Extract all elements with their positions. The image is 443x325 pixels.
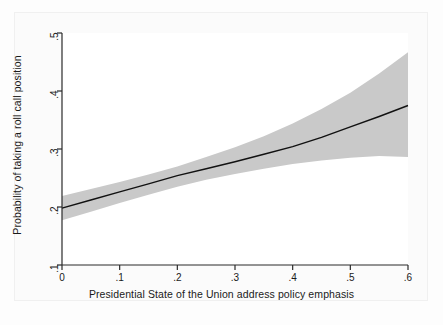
x-tick-label: .6 <box>396 272 420 283</box>
y-tick-label: .3 <box>49 149 60 171</box>
y-tick-label: .1 <box>49 265 60 287</box>
x-tick-label: .5 <box>338 272 362 283</box>
y-axis-title-container: Probability of taking a roll call positi… <box>0 0 34 290</box>
y-tick-label: .4 <box>49 91 60 113</box>
x-axis-title: Presidential State of the Union address … <box>0 288 443 300</box>
y-tick-label: .2 <box>49 207 60 229</box>
y-axis-title: Probability of taking a roll call positi… <box>11 55 23 234</box>
x-tick-label: .1 <box>108 272 132 283</box>
x-tick-label: .2 <box>165 272 189 283</box>
figure-container: Probability of taking a roll call positi… <box>0 0 443 325</box>
y-tick-label: .5 <box>49 33 60 55</box>
x-tick-label: .4 <box>281 272 305 283</box>
x-tick-label: .3 <box>223 272 247 283</box>
